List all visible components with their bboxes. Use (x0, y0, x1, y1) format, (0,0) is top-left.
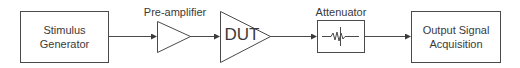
preamplifier-triangle (158, 22, 191, 53)
stimulus-label: Stimulus Generator (20, 23, 109, 51)
output-label: Output Signal Acquisition (411, 23, 501, 51)
output-label-line2: Acquisition (411, 37, 501, 51)
stimulus-label-line1: Stimulus (20, 23, 109, 37)
stimulus-label-line2: Generator (20, 37, 109, 51)
dut-label: DUT (222, 28, 262, 42)
output-label-line1: Output Signal (411, 23, 501, 37)
preamplifier-label: Pre-amplifier (135, 5, 215, 19)
attenuator-label: Attenuator (306, 5, 376, 19)
